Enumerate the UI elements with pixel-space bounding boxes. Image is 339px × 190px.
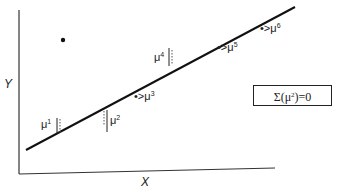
residual-label-mu3: •>μ3 (134, 90, 155, 102)
mu5-symbol: •>μ (217, 41, 234, 53)
sum-suffix: )=0 (295, 90, 312, 104)
y-axis-label: Y (4, 77, 12, 91)
residual-label-mu2: μ2 (110, 114, 120, 126)
regression-line (26, 7, 295, 150)
residual-marker-mu4 (169, 48, 172, 66)
mu2-index: 2 (116, 114, 120, 121)
sum-of-residuals-box: Σ(μ2)=0 (253, 85, 332, 106)
sum-prefix: Σ(μ (274, 90, 291, 104)
mu5-index: 5 (234, 41, 238, 48)
mu3-index: 3 (151, 90, 155, 97)
residual-label-mu1: μ1 (41, 118, 51, 130)
mu6-symbol: •>μ (260, 22, 277, 34)
regression-diagram: μ1 μ2 •>μ3 μ4 •>μ5 •>μ6 Y X Σ(μ2)=0 (0, 0, 339, 190)
x-axis-label: X (141, 175, 149, 189)
mu3-symbol: •>μ (134, 90, 151, 102)
x-axis (19, 168, 275, 174)
outlier-point (61, 38, 65, 42)
residual-label-mu5: •>μ5 (217, 41, 238, 53)
mu6-index: 6 (277, 22, 281, 29)
mu4-index: 4 (160, 51, 164, 58)
residual-label-mu4: μ4 (154, 51, 164, 63)
residual-marker-mu2 (104, 110, 107, 132)
mu1-index: 1 (47, 118, 51, 125)
residual-label-mu6: •>μ6 (260, 22, 281, 34)
